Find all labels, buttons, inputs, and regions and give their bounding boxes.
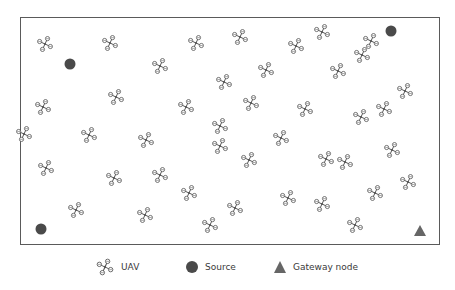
legend-label-source: Source [205, 262, 236, 272]
legend-label-uav: UAV [121, 262, 139, 272]
uav-icon [244, 96, 259, 111]
legend-item-gateway: Gateway node [273, 252, 358, 282]
uav-icon [139, 133, 154, 148]
source-node [36, 224, 47, 235]
uav-icon [259, 63, 274, 78]
uav-icon [217, 75, 232, 90]
uav-icon [319, 152, 334, 167]
uav-icon [401, 175, 416, 190]
uav-icon [38, 37, 53, 52]
uav-icon [233, 30, 248, 45]
uav-icon [213, 119, 228, 134]
uav-icon [281, 191, 296, 206]
uav-icon [213, 139, 228, 154]
uav-icon [138, 208, 153, 223]
gateway-node [414, 225, 426, 236]
source-icon [185, 260, 199, 274]
uav-icon [364, 34, 379, 49]
uav-icon [289, 39, 304, 54]
uav-icon [69, 203, 84, 218]
uav-icon [274, 131, 289, 146]
legend: UAV Source Gateway node [0, 252, 455, 282]
uav-icon [338, 155, 353, 170]
uav-icon [398, 84, 413, 99]
uav-icon [331, 64, 346, 79]
uav-icon [355, 48, 370, 63]
uav-icon [95, 257, 115, 277]
uav-icon [39, 161, 54, 176]
uav-icon [153, 59, 168, 74]
uav-icon [368, 186, 383, 201]
uav-icon [385, 143, 400, 158]
uav-icon [153, 168, 168, 183]
uav-icon [179, 100, 194, 115]
source-node [65, 59, 76, 70]
uav-icon [228, 201, 243, 216]
legend-item-uav: UAV [95, 252, 139, 282]
uav-icon [377, 102, 392, 117]
legend-label-gateway: Gateway node [293, 262, 358, 272]
uav-icon [315, 25, 330, 40]
legend-item-source: Source [185, 252, 236, 282]
uav-icon [354, 110, 369, 125]
uav-icon [17, 127, 32, 142]
uav-icon [298, 102, 313, 117]
uav-icon [103, 36, 118, 51]
uav-icon [82, 128, 97, 143]
network-field [0, 0, 455, 250]
uav-icon [182, 186, 197, 201]
gateway-icon [273, 260, 287, 274]
uav-icon [107, 171, 122, 186]
source-node [386, 26, 397, 37]
uav-icon [315, 197, 330, 212]
uav-icon [348, 218, 363, 233]
uav-icon [203, 218, 218, 233]
uav-icon [242, 153, 257, 168]
uav-icon [189, 36, 204, 51]
uav-icon [97, 259, 113, 275]
uav-icon [36, 100, 51, 115]
uav-icon [109, 90, 124, 105]
